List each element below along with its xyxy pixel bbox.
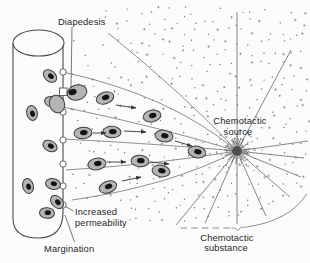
chemotactic-gradient-line — [108, 33, 237, 151]
substance-dot — [291, 89, 292, 90]
migrating-leukocyte — [142, 108, 162, 123]
substance-dot — [108, 108, 109, 109]
substance-dot — [270, 33, 271, 34]
substance-dot — [251, 85, 252, 86]
substance-dot — [253, 170, 254, 171]
substance-dot — [272, 112, 273, 113]
substance-dot — [168, 7, 169, 8]
substance-plus-mark — [301, 104, 304, 107]
substance-dot — [264, 9, 265, 10]
substance-dot — [251, 141, 252, 142]
substance-dot — [172, 189, 173, 190]
substance-dot — [190, 14, 191, 15]
substance-dot — [261, 88, 262, 89]
substance-dot — [131, 208, 132, 209]
substance-dot — [196, 174, 197, 175]
substance-plus-mark — [145, 75, 148, 78]
substance-plus-mark — [256, 165, 259, 168]
marginated-leukocyte — [39, 207, 55, 219]
substance-plus-mark — [141, 149, 144, 152]
substance-plus-mark — [273, 114, 276, 117]
label-margination: Margination — [44, 244, 94, 254]
substance-dot — [110, 145, 111, 146]
label-diapedesis: Diapedesis — [58, 17, 106, 27]
substance-plus-mark — [168, 40, 171, 43]
substance-dot — [284, 152, 285, 153]
substance-dot — [275, 53, 276, 54]
substance-plus-mark — [269, 159, 272, 162]
migrating-leukocyte — [151, 164, 171, 179]
substance-dot — [149, 24, 150, 25]
substance-dot — [296, 131, 297, 132]
substance-dot — [184, 199, 185, 200]
substance-dot — [306, 90, 307, 91]
substance-dot — [243, 12, 244, 13]
substance-dot — [77, 120, 78, 121]
marginated-leukocyte — [21, 177, 35, 194]
vessel-wall — [13, 43, 63, 238]
substance-plus-mark — [282, 53, 285, 56]
substance-dot — [283, 61, 284, 62]
substance-dot — [130, 182, 131, 183]
substance-dot — [96, 117, 97, 118]
substance-plus-mark — [272, 137, 275, 140]
substance-dot — [305, 154, 306, 155]
substance-dot — [241, 138, 242, 139]
migration-arrow — [175, 141, 192, 146]
substance-dot — [225, 171, 226, 172]
substance-dot — [172, 78, 173, 79]
substance-dot — [247, 142, 248, 143]
substance-dot — [83, 183, 84, 184]
substance-plus-mark — [202, 181, 205, 184]
substance-dot — [279, 143, 280, 144]
substance-dot — [164, 198, 165, 199]
substance-dot — [164, 19, 165, 20]
substance-dot — [130, 43, 131, 44]
substance-dot — [184, 106, 185, 107]
substance-dot — [104, 152, 105, 153]
source-ray — [237, 151, 304, 158]
substance-dot — [290, 52, 291, 53]
substance-dot — [217, 54, 218, 55]
substance-dot — [138, 121, 139, 122]
substance-dot — [305, 130, 306, 131]
endothelial-gap — [60, 137, 66, 143]
substance-plus-mark — [301, 32, 304, 35]
substance-dot — [220, 8, 221, 9]
substance-dot — [219, 139, 220, 140]
substance-dot — [209, 64, 210, 65]
substance-dot — [249, 18, 250, 19]
substance-dot — [149, 155, 150, 156]
substance-dot — [185, 6, 186, 7]
substance-dot — [268, 63, 269, 64]
substance-dot — [285, 124, 286, 125]
substance-dot — [290, 118, 291, 119]
substance-dot — [144, 97, 145, 98]
substance-dot — [195, 217, 196, 218]
substance-dot — [203, 57, 204, 58]
substance-dot — [268, 39, 269, 40]
substance-dot — [225, 109, 226, 110]
substance-dot — [284, 40, 285, 41]
substance-dot — [126, 20, 127, 21]
migrating-leukocyte — [95, 90, 116, 107]
substance-dot — [258, 183, 259, 184]
substance-dot — [85, 55, 86, 56]
substance-dot — [177, 23, 178, 24]
substance-dot — [216, 153, 217, 154]
substance-dot — [247, 205, 248, 206]
substance-dot — [227, 195, 228, 196]
substance-dot — [73, 40, 74, 41]
substance-dot — [217, 91, 218, 92]
substance-dot — [168, 192, 169, 193]
substance-dot — [238, 163, 239, 164]
substance-dot — [118, 149, 119, 150]
substance-dot — [138, 61, 139, 62]
substance-plus-mark — [251, 61, 254, 64]
substance-boundary-curve — [246, 194, 308, 228]
substance-dot — [135, 218, 136, 219]
substance-dot — [283, 77, 284, 78]
substance-dot — [151, 11, 152, 12]
substance-boundary — [181, 194, 308, 231]
substance-dot — [98, 109, 99, 110]
